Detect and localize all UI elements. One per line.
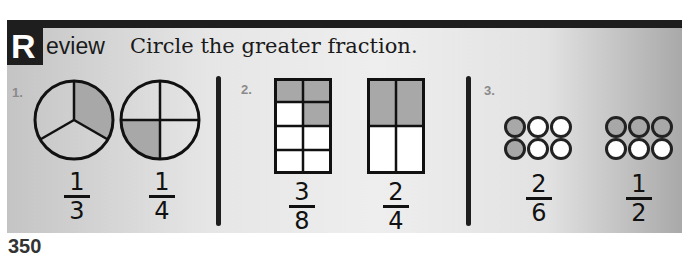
counters-two-sixths-model	[504, 116, 572, 160]
numerator: 1	[147, 170, 177, 194]
section-divider-1	[216, 76, 221, 226]
problem-1-number: 1.	[12, 85, 23, 100]
denominator: 6	[524, 201, 554, 225]
counters-one-half-model	[605, 116, 673, 160]
fraction-1-2: 1 2	[624, 172, 654, 225]
denominator: 3	[62, 199, 92, 223]
fraction-3-8: 3 8	[287, 180, 317, 233]
header-bar	[7, 20, 682, 28]
problem-3-number: 3.	[484, 83, 495, 98]
denominator: 8	[287, 209, 317, 233]
numerator: 1	[624, 172, 654, 196]
fraction-1-4: 1 4	[147, 170, 177, 223]
denominator: 4	[381, 209, 411, 233]
denominator: 2	[624, 201, 654, 225]
fraction-2-6: 2 6	[524, 172, 554, 225]
section-divider-2	[466, 76, 471, 226]
circle-fourths-model	[120, 80, 200, 160]
fraction-1-3: 1 3	[62, 170, 92, 223]
numerator: 1	[62, 170, 92, 194]
numerator: 2	[524, 172, 554, 196]
instruction-text: Circle the greater fraction.	[130, 30, 418, 62]
review-badge: R	[7, 28, 43, 65]
numerator: 2	[381, 180, 411, 204]
denominator: 4	[147, 199, 177, 223]
rectangle-eighths-model	[274, 78, 332, 174]
review-title: eview	[46, 30, 105, 62]
problem-2-number: 2.	[241, 82, 252, 97]
page-number: 350	[8, 236, 41, 256]
review-badge-letter: R	[11, 27, 36, 65]
numerator: 3	[287, 180, 317, 204]
circle-thirds-model	[34, 80, 114, 160]
rectangle-fourths-model	[367, 78, 425, 174]
fraction-2-4: 2 4	[381, 180, 411, 233]
